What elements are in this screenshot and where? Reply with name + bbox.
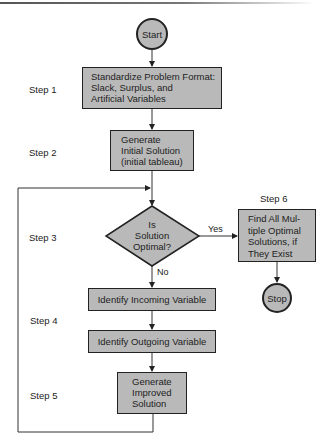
node-text-line: Generate <box>132 376 172 387</box>
node-text-line: tiple Optimal <box>248 225 306 237</box>
node-text: Identify Incoming Variable <box>98 294 207 305</box>
node-text-line: Generate <box>121 134 183 145</box>
decision-node: Is Solution Optimal? <box>118 219 186 252</box>
node-text-line: Is <box>118 219 186 230</box>
incoming-variable-node: Identify Incoming Variable <box>88 288 216 311</box>
step-6-label: Step 6 <box>260 193 287 204</box>
step-4-label: Step 4 <box>30 315 57 326</box>
no-edge-label: No <box>157 267 169 277</box>
start-label: Start <box>142 29 162 40</box>
stop-label: Stop <box>267 293 287 304</box>
node-text-line: (initial tableau) <box>121 156 183 167</box>
step-2-label: Step 2 <box>29 147 56 158</box>
node-text-line: Solution <box>118 230 186 241</box>
step-3-label: Step 3 <box>29 232 56 243</box>
node-text-line: Standardize Problem Format: <box>91 71 213 82</box>
node-text-line: Solution <box>132 398 172 409</box>
node-text-line: Optimal? <box>118 241 186 252</box>
node-text: Identify Outgoing Variable <box>98 336 207 347</box>
node-text-line: Slack, Surplus, and <box>91 82 213 93</box>
node-text-line: Artificial Variables <box>91 93 213 104</box>
improved-solution-node: Generate Improved Solution <box>117 372 187 414</box>
stop-node: Stop <box>262 283 292 313</box>
node-text-line: Initial Solution <box>121 145 183 156</box>
outgoing-variable-node: Identify Outgoing Variable <box>88 330 216 353</box>
start-node: Start <box>136 18 168 50</box>
node-text-line: Improved <box>132 387 172 398</box>
node-text-line: Find All Mul- <box>248 213 306 225</box>
node-text-line: Solutions, if <box>248 236 306 248</box>
yes-edge-label: Yes <box>208 224 223 234</box>
node-text-line: They Exist <box>248 248 306 260</box>
find-multiple-solutions-node: Find All Mul- tiple Optimal Solutions, i… <box>238 209 316 262</box>
step-5-label: Step 5 <box>30 390 57 401</box>
step-1-label: Step 1 <box>29 84 56 95</box>
standardize-node: Standardize Problem Format: Slack, Surpl… <box>82 67 222 109</box>
initial-solution-node: Generate Initial Solution (initial table… <box>110 130 194 171</box>
